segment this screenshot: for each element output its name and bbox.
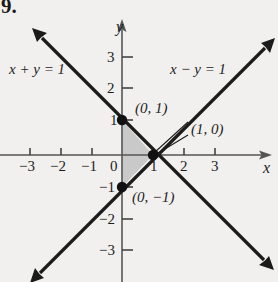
line-x-plus-y-equals-1 xyxy=(40,202,262,253)
equation-label-right: x − y = 1 xyxy=(170,62,226,77)
y-tick-label-2: 2 xyxy=(107,81,115,96)
x-tick-label-3: 3 xyxy=(211,159,219,174)
y-tick-label-neg1: −1 xyxy=(99,180,115,195)
x-tick-label-neg2: −2 xyxy=(50,159,66,174)
point-0-1 xyxy=(117,115,127,125)
leader-line-lower xyxy=(155,135,188,155)
x-tick-label-2: 2 xyxy=(180,159,188,174)
point-0-neg1 xyxy=(117,182,127,192)
point-label-0-1: (0, 1) xyxy=(135,101,168,116)
y-tick-label-neg2: −2 xyxy=(99,212,115,227)
point-label-1-0: (1, 0) xyxy=(191,122,224,137)
y-tick-label-3: 3 xyxy=(107,50,115,65)
x-axis-label: x xyxy=(263,160,270,176)
equation-label-left: x + y = 1 xyxy=(9,62,65,77)
x-tick-label-1: 1 xyxy=(150,159,158,174)
x-tick-label-neg1: −1 xyxy=(81,159,97,174)
y-tick-label-neg3: −3 xyxy=(99,243,115,258)
graph-line-x-plus-y xyxy=(32,28,274,270)
coordinate-plane xyxy=(0,0,278,282)
callout-leader-lines xyxy=(154,122,188,155)
y-axis-label: y xyxy=(116,19,123,35)
x-tick-label-neg3: −3 xyxy=(19,159,35,174)
y-tick-label-1: 1 xyxy=(110,113,118,128)
graph-figure: 9. xyxy=(0,0,278,282)
x-tick-label-0: 0 xyxy=(110,159,118,174)
point-label-0-neg1: (0, −1) xyxy=(132,190,175,205)
